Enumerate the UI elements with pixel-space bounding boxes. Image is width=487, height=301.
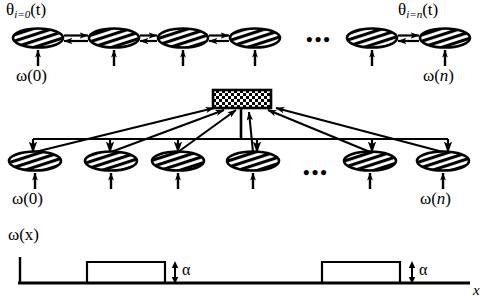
top-row-ellipsis: •••: [306, 30, 332, 49]
middle-row-node: [227, 152, 279, 171]
fusion-box: [213, 90, 271, 108]
diagram-vector-layer: [0, 0, 487, 301]
theta-right-argument: (t): [422, 0, 438, 19]
aggregation-arrow: [249, 112, 253, 152]
top-row-node: [347, 29, 397, 48]
theta-left-symbol: θ: [6, 0, 14, 19]
omega-mid-right-label: ω(n): [420, 190, 451, 207]
waveform-pulse: [322, 262, 400, 283]
alpha-label-2: α: [419, 262, 427, 278]
omega-waveform-label: ω(x): [8, 226, 39, 243]
top-row-node: [230, 29, 280, 48]
broadcast-bus: [33, 108, 448, 139]
theta-left-label: θi=0(t): [6, 1, 46, 20]
middle-row-node: [85, 152, 137, 171]
top-row-node: [89, 29, 139, 48]
middle-row-node: [417, 152, 469, 171]
middle-row-node: [344, 152, 396, 171]
top-row-coupling-arrow: [398, 36, 419, 42]
omega-top-left-label: ω(0): [16, 67, 47, 84]
top-row-coupling-arrow: [209, 36, 229, 42]
figure-canvas: θi=0(t) θi=n(t) ω(0) ω(n) ••• ω(0) ω(n) …: [0, 0, 487, 301]
top-row-coupling-arrow: [64, 36, 88, 42]
theta-right-subscript: i=n: [406, 8, 422, 20]
middle-row-node: [152, 152, 204, 171]
waveform-group: [18, 257, 470, 284]
alpha-label-1: α: [182, 262, 190, 278]
top-row-node: [13, 29, 63, 48]
alpha-measure-arrow: [172, 261, 178, 284]
theta-left-subscript: i=0: [14, 8, 30, 20]
omega-mid-right-suffix: ): [445, 189, 451, 208]
aggregation-arrow: [276, 108, 443, 152]
x-axis-label: x: [473, 283, 480, 298]
omega-mid-left-label: ω(0): [12, 190, 43, 207]
top-row-coupling-arrow: [140, 36, 157, 42]
omega-mid-right-prefix: ω(: [420, 189, 437, 208]
theta-right-label: θi=n(t): [398, 1, 438, 20]
top-row-node: [420, 29, 470, 48]
middle-row-group: [9, 90, 469, 189]
top-row-group: [13, 29, 470, 67]
middle-row-ellipsis: •••: [303, 163, 329, 182]
alpha-measure-arrow: [409, 261, 415, 284]
omega-top-right-suffix: ): [448, 66, 454, 85]
omega-top-right-prefix: ω(: [423, 66, 440, 85]
theta-right-symbol: θ: [398, 0, 406, 19]
aggregation-arrow: [268, 110, 370, 152]
theta-left-argument: (t): [30, 0, 46, 19]
omega-top-right-label: ω(n): [423, 67, 454, 84]
middle-row-node: [9, 152, 61, 171]
waveform-pulse: [87, 262, 165, 283]
top-row-node: [158, 29, 208, 48]
